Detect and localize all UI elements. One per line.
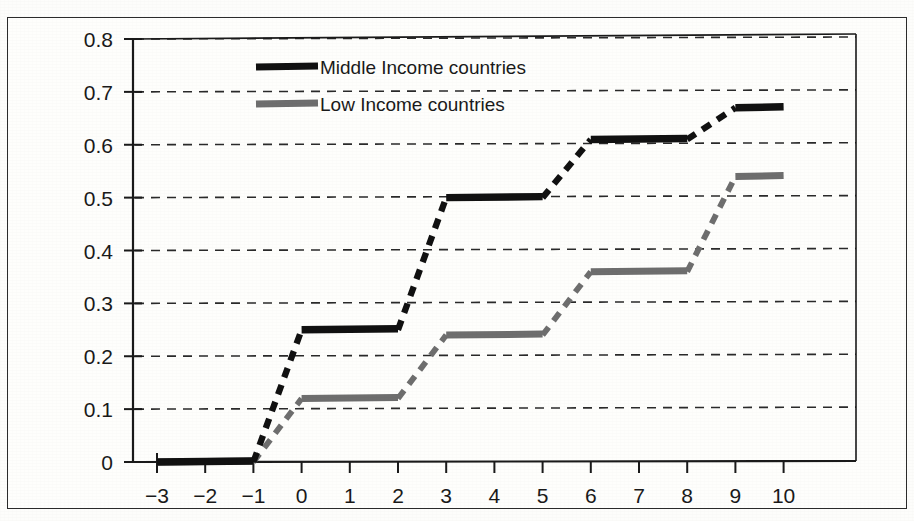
x-tick-label-10: 10 xyxy=(772,484,795,507)
y-tick-label-0.5: 0.5 xyxy=(84,187,113,210)
legend-label-middle-income: Middle Income countries xyxy=(320,57,526,78)
segment-flat xyxy=(446,334,542,335)
segment-riser xyxy=(398,335,446,398)
y-tick-label-0.2: 0.2 xyxy=(84,345,113,368)
y-tick-label-0.4: 0.4 xyxy=(84,240,114,263)
segment-flat xyxy=(157,461,253,462)
x-tick-label-1: 1 xyxy=(344,484,356,507)
segment-riser xyxy=(253,399,301,462)
legend-label-low-income: Low Income countries xyxy=(320,94,505,115)
x-tick-label-5: 5 xyxy=(537,484,549,507)
x-tick-label-2: 2 xyxy=(392,484,404,507)
x-tick-label-6: 6 xyxy=(585,484,597,507)
y-tick-label-0.8: 0.8 xyxy=(84,28,113,51)
segment-riser xyxy=(253,330,301,462)
segment-flat xyxy=(446,197,542,198)
series-low-income-countries xyxy=(157,175,784,462)
gridline-0.3 xyxy=(135,301,856,303)
x-tick-label-3: 3 xyxy=(440,484,452,507)
segment-flat xyxy=(302,329,398,330)
segment-riser xyxy=(687,176,735,271)
y-tick-label-0: 0 xyxy=(101,451,113,474)
x-tick-label-7: 7 xyxy=(633,484,645,507)
segment-riser xyxy=(687,108,735,140)
x-tick-label-9: 9 xyxy=(730,484,742,507)
figure-container: 00.10.20.30.40.50.60.70.8 −3−2−101234567… xyxy=(0,0,914,521)
gridlines xyxy=(135,37,856,409)
x-tick-label--2: −2 xyxy=(193,484,217,507)
segment-riser xyxy=(398,198,446,330)
segment-flat xyxy=(302,398,398,399)
x-tick-label--3: −3 xyxy=(145,484,169,507)
x-tick-label-0: 0 xyxy=(296,484,308,507)
x-axis-tick-labels: −3−2−1012345678910 xyxy=(145,484,795,507)
segment-flat xyxy=(591,138,687,139)
gridline-0.1 xyxy=(135,407,856,409)
y-tick-label-0.1: 0.1 xyxy=(84,398,113,421)
segment-flat xyxy=(735,107,783,108)
segment-flat xyxy=(735,175,783,176)
x-tick-label--1: −1 xyxy=(241,484,265,507)
chart-legend: Middle Income countries Low Income count… xyxy=(256,57,526,115)
gridline-0.6 xyxy=(135,143,856,145)
y-tick-label-0.3: 0.3 xyxy=(84,292,113,315)
chart-canvas: 00.10.20.30.40.50.60.70.8 −3−2−101234567… xyxy=(0,0,914,521)
x-tick-label-4: 4 xyxy=(489,484,501,507)
segment-riser xyxy=(543,139,591,197)
legend-swatch-gray xyxy=(256,103,318,104)
y-tick-label-0.6: 0.6 xyxy=(84,134,113,157)
y-tick-label-0.7: 0.7 xyxy=(84,81,113,104)
gridline-0.4 xyxy=(135,249,856,251)
y-axis-tick-labels: 00.10.20.30.40.50.60.70.8 xyxy=(84,28,114,474)
segment-riser xyxy=(543,272,591,335)
gridline-0.7 xyxy=(135,90,856,92)
segment-flat xyxy=(591,271,687,272)
legend-swatch-black xyxy=(256,66,318,67)
gridline-0.2 xyxy=(135,354,856,356)
x-tick-label-8: 8 xyxy=(681,484,693,507)
